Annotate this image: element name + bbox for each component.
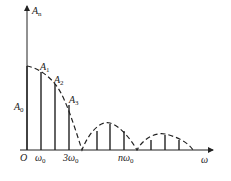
- a3-label: A3: [69, 95, 79, 107]
- a1-label: A1: [40, 62, 50, 74]
- x-axis-label: ω: [201, 155, 208, 165]
- a0-label: A0: [14, 102, 24, 114]
- tick-nomega0: nω0: [118, 153, 134, 165]
- y-axis-label: An: [32, 6, 42, 18]
- a2-label: A2: [54, 75, 64, 87]
- tick-3omega0: 3ω0: [63, 153, 79, 165]
- tick-omega0: ω0: [35, 153, 46, 165]
- amplitude-spectrum-diagram: An ω O A0 A1 A2 A3 ω0 3ω0 nω0: [0, 0, 231, 181]
- origin-label: O: [20, 153, 27, 163]
